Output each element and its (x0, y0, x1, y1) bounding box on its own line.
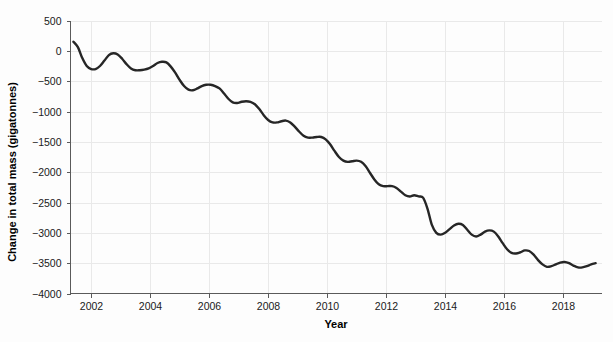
y-axis-title: Change in total mass (gigatonnes) (6, 82, 18, 262)
x-tick-label: 2006 (198, 300, 222, 312)
y-tick-label: −3500 (32, 257, 62, 269)
y-tick-label: −500 (38, 75, 62, 87)
x-tick-label: 2004 (139, 300, 163, 312)
y-tick-label: −4000 (32, 288, 62, 300)
x-tick-label: 2014 (434, 300, 458, 312)
x-tick-label: 2010 (316, 300, 340, 312)
x-tick-label: 2018 (552, 300, 576, 312)
x-tick-label: 2008 (257, 300, 281, 312)
x-axis-title: Year (324, 318, 348, 330)
y-tick-label: 0 (56, 45, 62, 57)
chart-page: 5000−500−1000−1500−2000−2500−3000−3500−4… (0, 0, 613, 342)
y-tick-label: −2000 (32, 166, 62, 178)
y-tick-label: −2500 (32, 197, 62, 209)
x-tick-group: 200220042006200820102012201420162018 (80, 294, 576, 312)
mass-change-line-chart: 5000−500−1000−1500−2000−2500−3000−3500−4… (0, 0, 613, 342)
y-tick-group: 5000−500−1000−1500−2000−2500−3000−3500−4… (32, 15, 71, 300)
y-tick-label: −3000 (32, 227, 62, 239)
y-tick-label: 500 (44, 15, 62, 27)
x-tick-label: 2016 (493, 300, 517, 312)
y-tick-label: −1000 (32, 106, 62, 118)
x-tick-label: 2012 (375, 300, 399, 312)
x-tick-label: 2002 (80, 300, 104, 312)
y-tick-label: −1500 (32, 136, 62, 148)
